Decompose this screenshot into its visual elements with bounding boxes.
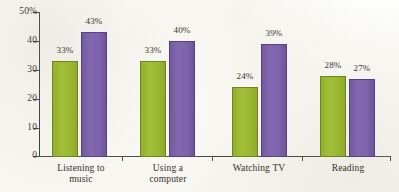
- y-axis-line: [39, 12, 40, 157]
- bar-g1-green[interactable]: [52, 61, 78, 157]
- x-axis-category-label-1: Listening to music: [36, 163, 126, 185]
- bar-value-g3-purple: 39%: [257, 29, 291, 38]
- x-tick-divider-2: [212, 157, 213, 161]
- x-tick-divider-4: [390, 157, 391, 161]
- x-axis-category-label-4: Reading: [304, 163, 392, 174]
- bar-value-g3-green: 24%: [228, 72, 262, 81]
- category-3-line-1: Watching TV: [214, 163, 304, 174]
- category-1-line-2: music: [36, 174, 126, 185]
- y-axis-label-10: 10: [0, 123, 37, 133]
- y-axis-label-0: 0: [0, 151, 37, 161]
- bar-g2-green[interactable]: [140, 61, 166, 157]
- category-4-line-1: Reading: [304, 163, 392, 174]
- bar-value-g2-purple: 40%: [165, 26, 199, 35]
- x-axis-category-label-2: Using a computer: [124, 163, 212, 185]
- y-axis-label-40: 40: [0, 36, 37, 46]
- bar-value-g1-green: 33%: [48, 46, 82, 55]
- bar-g3-green[interactable]: [232, 87, 258, 157]
- bar-g1-purple[interactable]: [81, 32, 107, 157]
- bar-g4-purple[interactable]: [349, 79, 375, 157]
- y-axis-label-50: 50%: [0, 7, 37, 17]
- bar-value-g2-green: 33%: [136, 46, 170, 55]
- bar-g4-green[interactable]: [320, 76, 346, 157]
- bar-chart: 50% 40 30 20 10 0 33% 43% Listening to m…: [0, 0, 399, 192]
- bar-value-g4-purple: 27%: [345, 64, 379, 73]
- bar-value-g1-purple: 43%: [77, 17, 111, 26]
- y-axis-label-30: 30: [0, 65, 37, 75]
- bar-g2-purple[interactable]: [169, 41, 195, 157]
- x-tick-divider-3: [302, 157, 303, 161]
- category-1-line-1: Listening to: [36, 163, 126, 174]
- category-2-line-2: computer: [124, 174, 212, 185]
- y-axis-label-20: 20: [0, 94, 37, 104]
- x-axis-category-label-3: Watching TV: [214, 163, 304, 174]
- x-tick-divider-1: [122, 157, 123, 161]
- category-2-line-1: Using a: [124, 163, 212, 174]
- bar-g3-purple[interactable]: [261, 44, 287, 157]
